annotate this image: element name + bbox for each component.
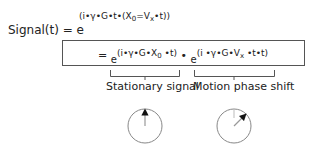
motion-phasor-icon bbox=[217, 109, 251, 143]
motion-phase-shift-label: Motion phase shift bbox=[193, 80, 294, 93]
diagram-graphics bbox=[0, 0, 323, 155]
stationary-phasor-icon bbox=[128, 109, 162, 143]
stationary-bracket bbox=[111, 70, 180, 80]
stationary-signal-label: Stationary signal bbox=[106, 80, 199, 93]
motion-bracket bbox=[195, 70, 275, 80]
